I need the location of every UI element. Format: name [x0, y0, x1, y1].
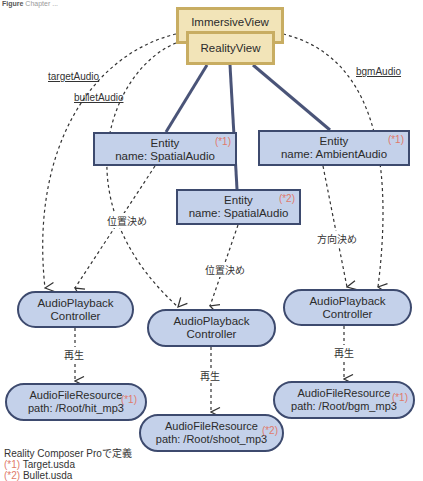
legend-item-2: (*2) Bullet.usda — [4, 470, 132, 481]
immersive-view-label: ImmersiveView — [191, 16, 269, 29]
source-mark: (*1) — [388, 133, 404, 146]
resource-path: path: /Root/bgm_mp3 — [291, 400, 397, 413]
controller-line1: AudioPlayback — [173, 315, 249, 328]
orientation-label: 方向決め — [317, 231, 357, 246]
legend-mark: (*1) — [4, 459, 20, 470]
controller-line2: Controller — [187, 328, 237, 341]
play-label-2: 再生 — [200, 368, 220, 383]
reality-view-node: RealityView — [186, 31, 275, 65]
source-mark: (*1) — [215, 135, 231, 148]
audio-file-resource-bgm: AudioFileResource path: /Root/bgm_mp3 (*… — [273, 381, 415, 419]
legend-text: Bullet.usda — [20, 470, 72, 481]
entity-name: name: SpatialAudio — [95, 150, 235, 163]
positioning-label-1: 位置決め — [107, 213, 147, 228]
resource-title: AudioFileResource — [30, 389, 123, 402]
audio-playback-controller-3: AudioPlayback Controller — [283, 289, 412, 326]
audio-playback-controller-1: AudioPlayback Controller — [17, 291, 134, 328]
legend: Reality Composer Proで定義 (*1) Target.usda… — [4, 448, 132, 481]
resource-title: AudioFileResource — [165, 420, 258, 433]
source-mark: (*1) — [392, 391, 408, 404]
resource-path: path: /Root/shoot_mp3 — [156, 433, 267, 446]
bullet-audio-label: bulletAudio — [74, 92, 123, 103]
resource-title: AudioFileResource — [298, 387, 391, 400]
entity-node-spatial-audio-1: Entity name: SpatialAudio (*1) — [93, 132, 237, 166]
audio-file-resource-shoot: AudioFileResource path: /Root/shoot_mp3 … — [139, 414, 284, 452]
audio-playback-controller-2: AudioPlayback Controller — [147, 309, 276, 347]
controller-line2: Controller — [323, 308, 373, 321]
audio-file-resource-hit: AudioFileResource path: /Root/hit_mp3 (*… — [5, 383, 147, 421]
entity-name: name: SpatialAudio — [178, 207, 299, 220]
entity-node-ambient-audio: Entity name: AmbientAudio (*1) — [258, 130, 410, 166]
reality-view-label: RealityView — [201, 42, 261, 55]
positioning-label-2: 位置決め — [205, 262, 245, 277]
legend-item-1: (*1) Target.usda — [4, 459, 132, 470]
controller-line1: AudioPlayback — [37, 297, 113, 310]
entity-name: name: AmbientAudio — [260, 148, 408, 161]
controller-line2: Controller — [51, 310, 101, 323]
legend-heading: Reality Composer Proで定義 — [4, 448, 132, 459]
legend-text: Target.usda — [20, 459, 75, 470]
composition-lines — [166, 65, 330, 189]
entity3-to-controller3 — [323, 166, 347, 287]
play-label-3: 再生 — [334, 345, 354, 360]
legend-mark: (*2) — [4, 470, 20, 481]
target-audio-label: targetAudio — [48, 71, 99, 82]
source-mark: (*2) — [279, 192, 295, 205]
play-label-1: 再生 — [64, 347, 84, 362]
bgm-audio-label: bgmAudio — [356, 66, 401, 77]
resource-path: path: /Root/hit_mp3 — [28, 402, 124, 415]
entity-node-spatial-audio-2: Entity name: SpatialAudio (*2) — [176, 189, 301, 225]
entity-title: Entity — [260, 135, 408, 148]
bullet-audio-arrow — [107, 43, 178, 307]
source-mark: (*2) — [262, 424, 278, 437]
source-mark: (*1) — [121, 393, 137, 406]
controller-line1: AudioPlayback — [309, 295, 385, 308]
